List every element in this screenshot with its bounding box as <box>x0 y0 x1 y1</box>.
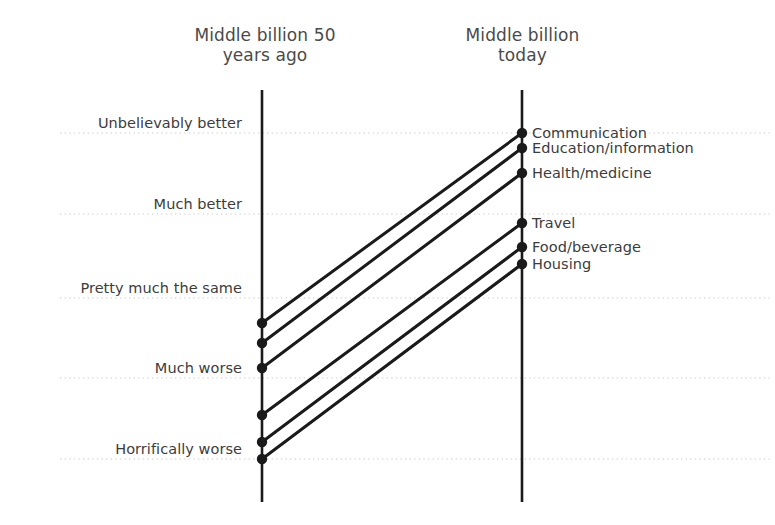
series-label-travel: Travel <box>532 215 575 231</box>
slope-chart: Middle billion 50 years ago Middle billi… <box>0 0 775 525</box>
series-label-health-medicine: Health/medicine <box>532 165 652 181</box>
series-label-education-information: Education/information <box>532 140 694 156</box>
series-labels: CommunicationEducation/informationHealth… <box>0 0 775 525</box>
series-label-food-beverage: Food/beverage <box>532 239 641 255</box>
series-label-communication: Communication <box>532 125 647 141</box>
series-label-housing: Housing <box>532 256 591 272</box>
